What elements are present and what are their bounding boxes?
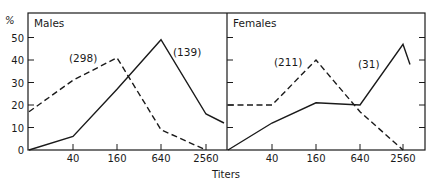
females-dashed-annotation: (211) [274, 56, 302, 68]
males-solid-annotation: (139) [173, 46, 201, 58]
x-tick-label: 640 [350, 153, 369, 164]
x-tick-label: 2560 [390, 153, 415, 164]
females-dashed-line [228, 60, 403, 150]
males-panel-title: Males [34, 17, 64, 29]
x-tick-label: 40 [266, 153, 279, 164]
x-tick-label: 2560 [193, 153, 218, 164]
y-tick-label: 20 [11, 100, 24, 111]
x-tick-label: 640 [151, 153, 170, 164]
females-panel-title: Females [233, 17, 276, 29]
females-solid-annotation: (31) [358, 58, 380, 70]
y-tick-label: 0 [18, 145, 24, 156]
x-tick-label: 160 [306, 153, 325, 164]
y-tick-label: 50 [11, 33, 24, 44]
x-axis-ticks: 401606402560401606402560 [67, 144, 416, 164]
y-tick-label: 10 [11, 123, 24, 134]
males-dashed-line [29, 58, 206, 150]
titer-distribution-chart: % 01020304050 Males Females 401606402560… [0, 0, 436, 184]
y-unit-label: % [5, 15, 15, 26]
males-dashed-annotation: (298) [69, 52, 97, 64]
x-axis-title: Titers [211, 169, 240, 180]
x-tick-label: 40 [67, 153, 80, 164]
females-solid-line [228, 44, 410, 150]
y-tick-label: 30 [11, 78, 24, 89]
y-tick-label: 40 [11, 55, 24, 66]
x-tick-label: 160 [107, 153, 126, 164]
